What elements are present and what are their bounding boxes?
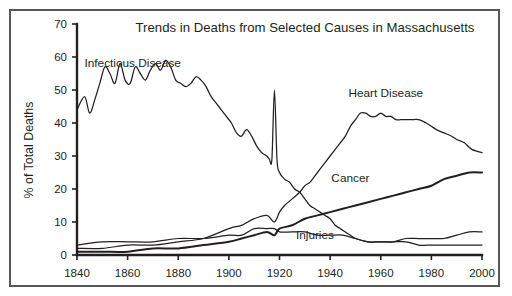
series-line-injuries xyxy=(77,228,482,245)
y-tick-label: 70 xyxy=(54,18,67,30)
x-tick-label: 1880 xyxy=(165,267,191,279)
x-tick-label: 1900 xyxy=(216,267,242,279)
x-tick-label: 1840 xyxy=(64,267,90,279)
y-tick-label: 50 xyxy=(54,84,67,96)
chart-plot-area: 010203040506070 184018601880190019201940… xyxy=(0,0,512,296)
annotation-cancer: Cancer xyxy=(331,171,369,185)
x-tick-label: 2000 xyxy=(469,267,495,279)
series-annotations: Infectious DiseaseHeart DiseaseCancerInj… xyxy=(84,56,423,242)
annotation-infectious-disease: Infectious Disease xyxy=(84,56,181,70)
y-tick-labels: 010203040506070 xyxy=(54,18,67,261)
y-axis-title: % of Total Deaths xyxy=(22,102,36,199)
y-tick-label: 10 xyxy=(54,216,67,228)
y-tick-label: 40 xyxy=(54,117,67,129)
x-tick-labels: 184018601880190019201940196019802000 xyxy=(64,267,495,279)
x-tick-label: 1860 xyxy=(115,267,141,279)
x-tick-label: 1920 xyxy=(267,267,293,279)
annotation-injuries: Injuries xyxy=(296,228,334,242)
annotation-heart-disease: Heart Disease xyxy=(348,86,423,100)
y-tick-label: 30 xyxy=(54,150,67,162)
x-tick-label: 1980 xyxy=(419,267,445,279)
y-tick-label: 60 xyxy=(54,51,67,63)
chart-title: Trends in Deaths from Selected Causes in… xyxy=(136,20,475,35)
x-tick-label: 1960 xyxy=(368,267,394,279)
y-tick-label: 0 xyxy=(61,249,67,261)
x-tick-label: 1940 xyxy=(317,267,343,279)
y-tick-label: 20 xyxy=(54,183,67,195)
chart-figure: 010203040506070 184018601880190019201940… xyxy=(0,0,512,296)
